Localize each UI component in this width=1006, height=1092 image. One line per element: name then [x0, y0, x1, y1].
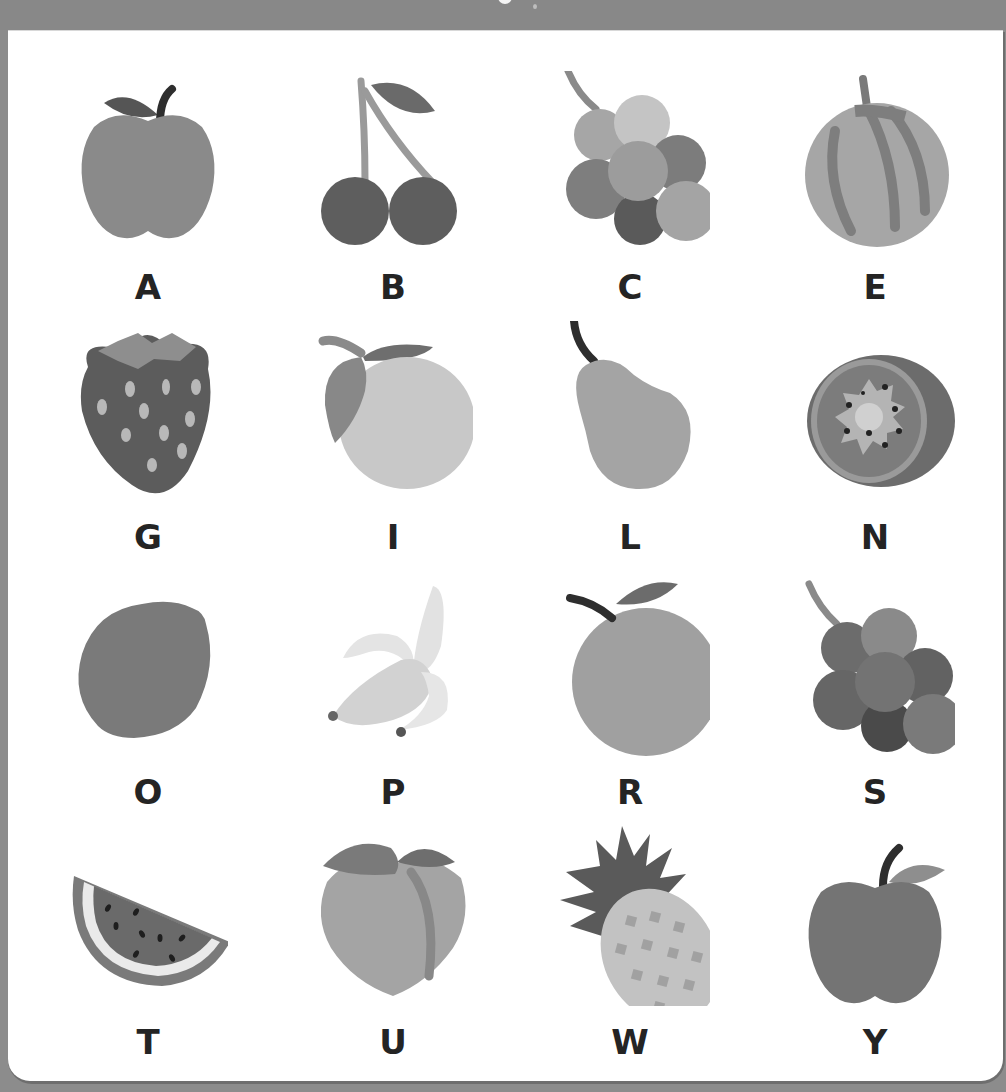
strawberry-icon	[68, 321, 228, 501]
fruit-card-y: Y	[760, 826, 990, 1076]
fruit-card-b: B	[278, 71, 508, 321]
lemon-icon	[313, 321, 473, 501]
fruit-card-i: I	[278, 321, 508, 571]
pineapple-icon	[550, 826, 710, 1006]
watermelon-icon	[68, 826, 228, 1006]
letter-label: I	[278, 517, 508, 557]
fruit-card-w: W	[515, 826, 745, 1076]
letter-label: Y	[760, 1022, 990, 1062]
peach-icon	[313, 826, 473, 1006]
letter-label: U	[278, 1022, 508, 1062]
letter-label: A	[33, 267, 263, 307]
cherry-icon	[313, 71, 473, 251]
fruit-card-l: L	[515, 321, 745, 571]
fruit-card-g: G	[33, 321, 263, 571]
melon-icon	[795, 71, 955, 251]
fruit-card-s: S	[760, 576, 990, 826]
letter-label: T	[33, 1022, 263, 1062]
lime-icon	[68, 576, 228, 756]
fruit-card-c: C	[515, 71, 745, 321]
worksheet-card: A B C	[8, 30, 1003, 1081]
fruit-card-u: U	[278, 826, 508, 1076]
letter-label: R	[515, 772, 745, 812]
letter-label: G	[33, 517, 263, 557]
title-band	[0, 0, 1006, 30]
grapes-dark-icon	[795, 576, 955, 756]
letter-label: N	[760, 517, 990, 557]
grapes-icon	[550, 71, 710, 251]
letter-label: P	[278, 772, 508, 812]
letter-label: S	[760, 772, 990, 812]
apple-red-icon	[795, 826, 955, 1006]
fruit-card-o: O	[33, 576, 263, 826]
fruit-card-t: T	[33, 826, 263, 1076]
letter-label: O	[33, 772, 263, 812]
fruit-card-n: N	[760, 321, 990, 571]
fruit-card-r: R	[515, 576, 745, 826]
letter-label: L	[515, 517, 745, 557]
letter-label: C	[515, 267, 745, 307]
title-glyph-fragment	[533, 4, 537, 9]
apple-icon	[68, 71, 228, 251]
title-glyph-fragment	[498, 0, 512, 4]
fruit-card-e: E	[760, 71, 990, 321]
kiwi-icon	[795, 321, 955, 501]
banana-icon	[313, 576, 473, 756]
letter-label: E	[760, 267, 990, 307]
letter-label: B	[278, 267, 508, 307]
fruit-card-p: P	[278, 576, 508, 826]
pear-icon	[550, 321, 710, 501]
orange-icon	[550, 576, 710, 756]
letter-label: W	[515, 1022, 745, 1062]
fruit-card-a: A	[33, 71, 263, 321]
